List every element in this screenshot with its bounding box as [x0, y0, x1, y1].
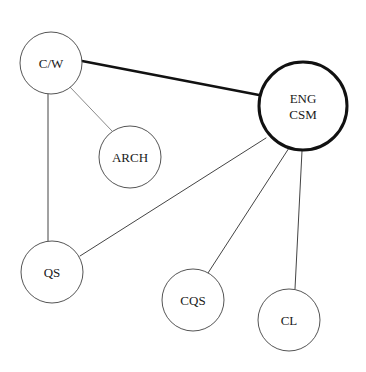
node-qs: QS	[21, 241, 83, 303]
node-label: C/W	[39, 56, 64, 71]
node-label: CSM	[289, 107, 317, 122]
edge-cw-eng_csm	[82, 61, 259, 95]
relationship-diagram: C/WARCHENGCSMQSCQSCL	[0, 0, 366, 372]
node-label: QS	[44, 265, 61, 280]
edge-eng_csm-cl	[295, 151, 302, 289]
node-arch: ARCH	[99, 126, 161, 188]
node-cqs: CQS	[162, 269, 224, 331]
node-label: CL	[281, 313, 298, 328]
node-label: ARCH	[112, 150, 148, 165]
node-cw: C/W	[20, 32, 82, 94]
edge-cw-arch	[70, 87, 112, 131]
node-eng_csm: ENGCSM	[259, 62, 347, 150]
node-cl: CL	[258, 289, 320, 351]
node-label: ENG	[290, 91, 317, 106]
node-label: CQS	[180, 293, 205, 308]
